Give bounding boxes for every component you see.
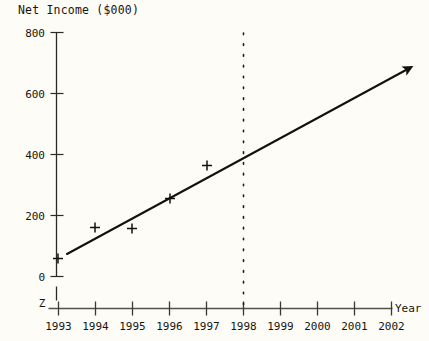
x-tick-label-1998: 1998 <box>230 320 257 333</box>
net-income-chart: Net Income ($000) 800 600 400 200 0 Z <box>0 0 429 341</box>
y-tick-label-800: 800 <box>25 27 45 40</box>
x-tick-label-2000: 2000 <box>304 320 331 333</box>
y-tick-label-0: 0 <box>38 271 45 284</box>
x-tick-label-2001: 2001 <box>341 320 368 333</box>
x-axis-label: Year <box>395 302 422 315</box>
data-point-1993 <box>53 254 63 264</box>
data-point-1997 <box>202 161 212 171</box>
data-point-1994 <box>90 223 100 233</box>
x-tick-label-1995: 1995 <box>119 320 146 333</box>
x-tick-label-1994: 1994 <box>82 320 109 333</box>
x-tick-label-1996: 1996 <box>156 320 183 333</box>
x-tick-label-1993: 1993 <box>45 320 72 333</box>
trend-line <box>67 70 406 254</box>
chart-title: Net Income ($000) <box>18 3 139 17</box>
x-tick-label-1999: 1999 <box>267 320 294 333</box>
x-tick-label-2002: 2002 <box>378 320 405 333</box>
y-tick-label-400: 400 <box>25 149 45 162</box>
y-tick-label-200: 200 <box>25 210 45 223</box>
axis-break-symbol: Z <box>39 297 46 310</box>
data-point-1996 <box>165 194 175 204</box>
x-tick-label-1997: 1997 <box>193 320 220 333</box>
chart-container: Net Income ($000) 800 600 400 200 0 Z <box>0 0 429 341</box>
data-point-1995 <box>127 224 137 234</box>
y-tick-label-600: 600 <box>25 88 45 101</box>
